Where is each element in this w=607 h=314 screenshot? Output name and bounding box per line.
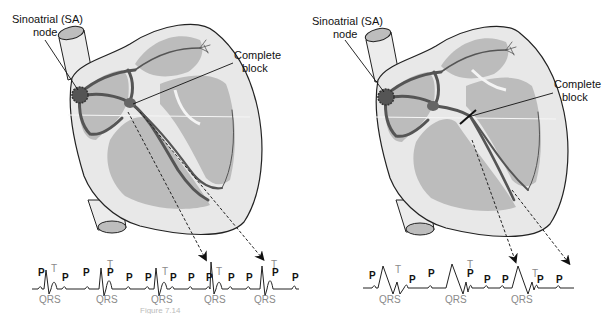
heart-block-diagram: Sinoatrial (SA) node Complete block [0, 0, 607, 314]
left-ecg-strip: P P P P P P P P P P P P P T T T T T QRS … [32, 259, 299, 305]
sa-node [378, 89, 394, 105]
p-wave-label: P [38, 267, 45, 278]
t-wave-label: T [395, 264, 401, 275]
p-wave-label: P [502, 274, 509, 285]
p-wave-label: P [409, 274, 416, 285]
right-heart-panel: Sinoatrial (SA) node Complete block [312, 15, 601, 262]
sa-node-label-line2: node [33, 26, 57, 38]
p-wave-label: P [206, 272, 213, 283]
av-node [124, 98, 136, 108]
qrs-label: QRS [39, 294, 61, 305]
qrs-label: QRS [379, 294, 401, 305]
p-wave-label: P [484, 274, 491, 285]
p-wave-label: P [145, 272, 152, 283]
t-wave-label: T [271, 259, 277, 270]
t-wave-label: T [532, 268, 538, 279]
qrs-label: QRS [445, 294, 467, 305]
t-wave-label: T [467, 259, 473, 270]
sa-node [72, 87, 88, 103]
block-label-line2: block [562, 91, 588, 103]
t-wave-label: T [51, 263, 57, 274]
block-label-line2: block [242, 62, 268, 74]
p-wave-label: P [62, 272, 69, 283]
sa-node-label-line1: Sinoatrial (SA) [12, 13, 83, 25]
qrs-label: QRS [511, 294, 533, 305]
p-wave-label: P [228, 272, 235, 283]
p-wave-label: P [83, 267, 90, 278]
qrs-label: QRS [151, 294, 173, 305]
p-wave-label: P [188, 272, 195, 283]
p-wave-label: P [428, 268, 435, 279]
block-label-line1: Complete [234, 49, 281, 61]
p-wave-label: P [246, 272, 253, 283]
qrs-label: QRS [254, 294, 276, 305]
right-ecg-strip: P P P P P P P P T T T QRS QRS QRS [363, 259, 574, 305]
qrs-label: QRS [96, 294, 118, 305]
p-wave-label: P [126, 272, 133, 283]
sa-node-label-line2: node [333, 28, 357, 40]
sa-node-label-line1: Sinoatrial (SA) [312, 15, 383, 27]
p-wave-label: P [292, 272, 299, 283]
figure-caption: Figure 7.14 [140, 306, 181, 314]
t-wave-label: T [107, 259, 113, 270]
p-wave-label: P [369, 270, 376, 281]
p-wave-label: P [556, 274, 563, 285]
t-wave-label: T [216, 266, 222, 277]
left-heart-panel: Sinoatrial (SA) node Complete block [12, 13, 281, 258]
block-label-line1: Complete [554, 78, 601, 90]
p-wave-label: P [170, 272, 177, 283]
av-node [427, 101, 439, 111]
qrs-label: QRS [204, 294, 226, 305]
t-wave-label: T [162, 266, 168, 277]
